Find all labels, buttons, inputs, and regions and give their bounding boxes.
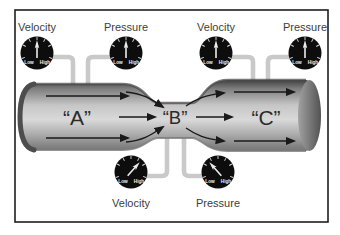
gauge-pressure-c: Low High	[289, 37, 322, 70]
pipe-section-c-label: “C”	[251, 106, 280, 129]
gauge-label-pressure-c: Pressure	[283, 21, 327, 33]
gauge-label-pressure-a: Pressure	[104, 21, 148, 33]
gauge-label-pressure-b: Pressure	[196, 197, 240, 209]
gauge-low-label: Low	[118, 179, 128, 184]
gauge-low-label: Low	[113, 60, 123, 65]
pipe-right-cap	[298, 80, 321, 151]
pipe-section-b-label: “B”	[163, 107, 188, 128]
gauge-high-label: High	[219, 60, 230, 65]
gauge-high-label: High	[308, 60, 319, 65]
gauge-low-label: Low	[24, 60, 34, 65]
pipe-section-a-label: “A”	[63, 106, 91, 129]
gauge-velocity-b: Low High	[115, 156, 148, 189]
gauge-label-velocity-b: Velocity	[112, 197, 150, 209]
gauge-high-label: High	[129, 60, 140, 65]
gauge-pressure-a: Low High	[110, 37, 143, 70]
gauge-velocity-a: Low High	[21, 37, 54, 70]
gauge-low-label: Low	[203, 60, 213, 65]
gauge-high-label: High	[221, 179, 232, 184]
gauge-velocity-c: Low High	[200, 37, 233, 70]
gauge-label-velocity-c: Velocity	[197, 21, 235, 33]
diagram-canvas: “A” “B” “C” Velocity Pressure Velocity P…	[0, 0, 340, 235]
venturi-diagram: “A” “B” “C” Velocity Pressure Velocity P…	[0, 0, 340, 235]
gauge-label-velocity-a: Velocity	[18, 21, 56, 33]
gauge-low-label: Low	[292, 60, 302, 65]
gauge-high-label: High	[134, 179, 145, 184]
gauge-pressure-b: Low High	[202, 156, 235, 189]
gauge-low-label: Low	[205, 179, 215, 184]
gauge-high-label: High	[40, 60, 51, 65]
